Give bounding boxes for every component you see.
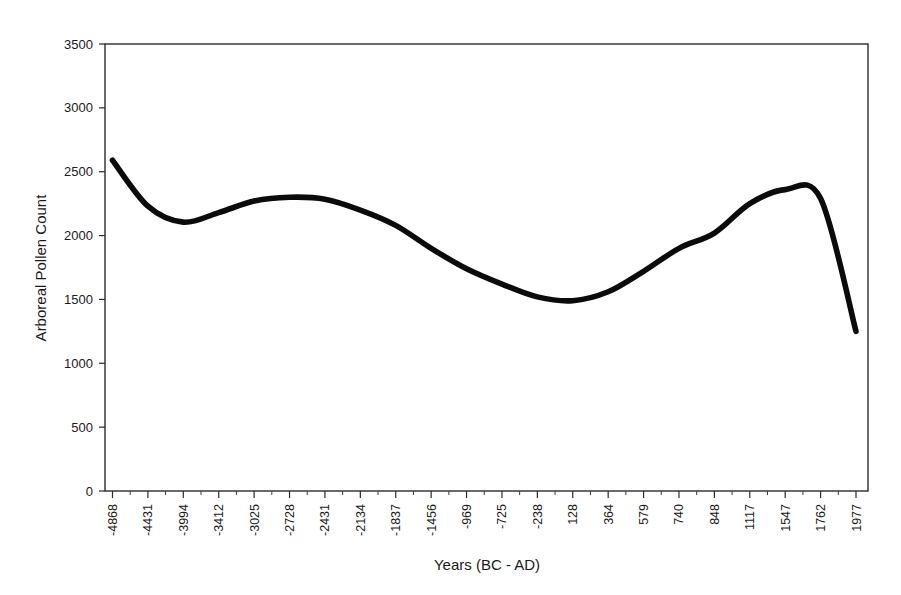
- x-axis-tick-label: -1837: [389, 504, 403, 536]
- x-axis-tick-label: 848: [708, 504, 722, 525]
- x-axis-tick-label: 740: [672, 504, 686, 525]
- chart-background: [0, 0, 901, 595]
- y-axis-tick-label: 1500: [64, 292, 93, 307]
- y-axis-tick-label: 2500: [64, 164, 93, 179]
- x-axis-tick-label: -2431: [318, 504, 332, 536]
- x-axis-tick-label: -4868: [106, 504, 120, 536]
- x-axis-tick-label: 1547: [779, 504, 793, 532]
- chart-figure: 0500100015002000250030003500 -4868-4431-…: [0, 0, 901, 595]
- x-axis-tick-label: 579: [637, 504, 651, 525]
- x-axis-tick-label: 1117: [743, 504, 757, 530]
- y-axis-title: Arboreal Pollen Count: [32, 194, 49, 342]
- x-axis-tick-label: -1456: [425, 504, 439, 536]
- x-axis-tick-label: 1977: [850, 504, 864, 532]
- x-axis-tick-label: 364: [602, 504, 616, 525]
- y-axis-tick-label: 500: [71, 420, 93, 435]
- x-axis-tick-label: 128: [566, 504, 580, 525]
- x-axis-tick-label: -3025: [248, 504, 262, 536]
- pollen-line-chart: 0500100015002000250030003500 -4868-4431-…: [0, 0, 901, 595]
- x-axis-title: Years (BC - AD): [434, 556, 540, 573]
- x-axis-tick-label: -3994: [177, 504, 191, 536]
- y-axis-tick-label: 1000: [64, 356, 93, 371]
- x-axis-tick-label: -4431: [141, 504, 155, 536]
- x-axis-tick-label: -3412: [212, 504, 226, 536]
- x-axis-tick-label: -2728: [283, 504, 297, 536]
- x-axis-tick-label: -969: [460, 504, 474, 529]
- x-axis-tick-label: -2134: [354, 504, 368, 536]
- x-axis-tick-label: 1762: [814, 504, 828, 532]
- y-axis-tick-label: 0: [86, 484, 93, 499]
- y-axis-tick-label: 2000: [64, 228, 93, 243]
- y-axis-tick-label: 3000: [64, 100, 93, 115]
- x-axis-tick-label: -725: [495, 504, 509, 529]
- x-axis-tick-label: -238: [531, 504, 545, 529]
- y-axis-tick-label: 3500: [64, 37, 93, 52]
- x-axis-minor-ticks: [130, 491, 838, 495]
